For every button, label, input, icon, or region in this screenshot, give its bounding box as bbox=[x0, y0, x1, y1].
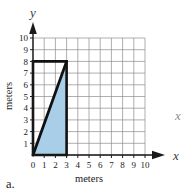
y-axis-unit-label: meters bbox=[3, 82, 14, 110]
y-tick-label: 1 bbox=[24, 139, 29, 149]
y-tick-label: 2 bbox=[24, 127, 29, 137]
y-tick-label: 8 bbox=[24, 57, 29, 67]
x-axis-variable-label: x bbox=[172, 148, 179, 163]
y-tick-label: 4 bbox=[24, 103, 29, 113]
x-tick-label: 5 bbox=[87, 160, 92, 170]
coordinate-plane-svg: 10 9 8 7 6 5 4 3 2 1 0 1 2 3 4 5 6 7 bbox=[0, 0, 191, 196]
x-tick-label: 8 bbox=[120, 160, 125, 170]
y-axis-arrow-icon bbox=[29, 22, 37, 34]
x-axis-unit-label: meters bbox=[75, 173, 103, 184]
y-tick-label: 9 bbox=[24, 45, 29, 55]
x-tick-label: 2 bbox=[53, 160, 58, 170]
y-tick-label: 5 bbox=[24, 92, 29, 102]
y-tick-label: 10 bbox=[19, 33, 29, 43]
x-axis-arrow-icon bbox=[152, 151, 165, 159]
x-tick-label: 6 bbox=[98, 160, 103, 170]
y-tick-label: 3 bbox=[24, 115, 29, 125]
part-label: a. bbox=[6, 177, 15, 191]
x-tick-label: 0 bbox=[31, 160, 36, 170]
x-tick-label: 9 bbox=[132, 160, 137, 170]
y-axis-variable-label: y bbox=[28, 5, 36, 20]
y-tick-label: 7 bbox=[24, 68, 29, 78]
x-tick-label: 7 bbox=[109, 160, 114, 170]
x-tick-label: 3 bbox=[64, 160, 69, 170]
y-tick-label: 6 bbox=[24, 80, 29, 90]
x-tick-label: 1 bbox=[42, 160, 47, 170]
graph-figure: 10 9 8 7 6 5 4 3 2 1 0 1 2 3 4 5 6 7 bbox=[0, 0, 191, 196]
x-tick-label: 4 bbox=[76, 160, 81, 170]
side-variable-label: x bbox=[174, 108, 181, 123]
x-tick-label: 10 bbox=[141, 160, 151, 170]
